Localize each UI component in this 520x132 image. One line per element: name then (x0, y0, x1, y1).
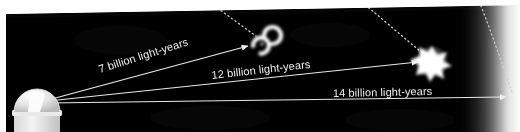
astronomy-lookback-diagram: 7 billion light-years 12 billion light-y… (0, 0, 520, 132)
sky-illustration: 7 billion light-years 12 billion light-y… (0, 0, 520, 132)
cosmic-horizon-glow (455, 5, 520, 132)
label-14-billion: 14 billion light-years (333, 85, 433, 99)
